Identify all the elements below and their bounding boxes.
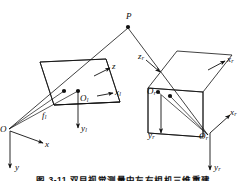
figure-caption: 图 3-11 双目视觉测量中左右相机三维重建: [0, 173, 247, 181]
ray-p-to-right-center: [128, 28, 208, 135]
figure-canvas: P Ol O Or Or z xl yl x y fl zr xr yr: [0, 0, 247, 181]
dot-left-image-point: [62, 89, 66, 93]
label-left-optical-center: O: [0, 125, 7, 134]
label-axis-world-x: x: [45, 140, 49, 149]
label-right-principal-point: Or: [147, 87, 156, 96]
ray-right-to-principal: [158, 92, 208, 135]
axis-right-xr-plane: [208, 61, 225, 70]
label-axis-left-z: z: [112, 62, 116, 71]
axis-right-cam-xr: [210, 115, 230, 133]
stereo-geometry-drawing: [0, 0, 247, 181]
left-image-plane-back: [54, 102, 120, 133]
label-axis-left-xl: xl: [115, 88, 121, 97]
dot-scene-point-P: [126, 25, 130, 29]
label-axis-right-yr-plane: yr: [148, 131, 155, 140]
axis-left-xl: [97, 93, 113, 96]
axis-world-x: [10, 131, 43, 143]
label-left-principal-point: Ol: [80, 94, 88, 103]
label-axis-right-xr-plane: xr: [227, 55, 234, 64]
label-scene-point-P: P: [126, 12, 132, 21]
label-right-optical-center: Or: [199, 132, 208, 141]
label-axis-right-cam-xr: xr: [230, 108, 237, 117]
label-axis-right-zr: zr: [138, 52, 144, 61]
axis-left-z: [94, 68, 110, 76]
dot-right-image-point: [168, 94, 172, 98]
dot-right-principal-point: [156, 90, 160, 94]
label-focal-length-left: fl: [42, 111, 46, 120]
label-axis-left-yl: yl: [81, 124, 87, 133]
ray-p-to-left-center: [9, 28, 128, 129]
ray-right-secondary: [170, 96, 208, 135]
label-axis-right-cam-yr: yr: [214, 163, 221, 172]
right-image-plane-back: [148, 88, 203, 137]
ray-left-secondary: [9, 91, 64, 129]
right-plane-bottom-edge: [148, 133, 203, 137]
left-plane-lower-edge: [40, 97, 106, 100]
label-axis-world-y: y: [15, 163, 19, 172]
